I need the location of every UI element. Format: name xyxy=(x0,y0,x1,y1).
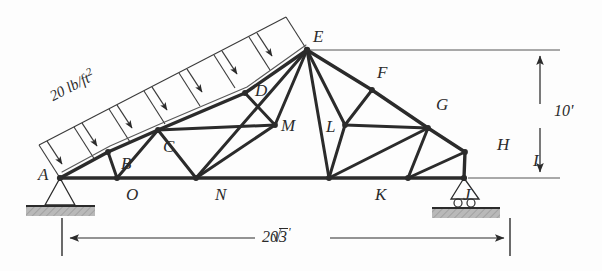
joint-M xyxy=(272,122,278,128)
member-C-M xyxy=(158,125,275,130)
joint-E xyxy=(304,47,310,53)
pin-triangle xyxy=(45,178,75,205)
roller-ground-hatch xyxy=(432,209,500,218)
node-label-K: K xyxy=(375,186,386,203)
member-A-E-top-inner xyxy=(62,45,306,172)
joint-G xyxy=(425,125,431,131)
span-dimension-label: 20√3' xyxy=(262,226,291,245)
node-label-D: D xyxy=(255,82,267,99)
support-pin-A xyxy=(26,178,95,216)
load-divider xyxy=(144,91,165,124)
node-label-O: O xyxy=(126,186,138,203)
node-label-C: C xyxy=(163,138,174,155)
node-label-A: A xyxy=(38,166,48,183)
load-divider xyxy=(214,55,235,88)
node-label-B: B xyxy=(121,155,131,172)
member-L-F xyxy=(345,90,372,125)
node-label-N: N xyxy=(215,186,226,203)
member-B-O xyxy=(108,152,117,178)
load-rail-end-right xyxy=(286,17,307,50)
joint-O xyxy=(114,175,120,181)
joint-C xyxy=(155,127,161,133)
node-label-I: I xyxy=(533,152,539,169)
load-divider xyxy=(179,73,200,106)
joint-N xyxy=(193,175,199,181)
truss-diagram-figure: A O N K J I B C D E F G H M L 20 lb/ft2 … xyxy=(0,0,602,271)
roller-wheel xyxy=(454,199,462,207)
joint-L xyxy=(342,122,348,128)
height-dimension-label: 10' xyxy=(554,103,573,119)
span-radical-sign: √ xyxy=(272,228,281,245)
node-label-F: F xyxy=(377,64,387,81)
member-E-N xyxy=(196,50,307,178)
node-label-G: G xyxy=(436,96,448,113)
pin-ground-hatch xyxy=(26,207,95,216)
load-divider xyxy=(74,127,95,160)
span-prime: ' xyxy=(288,225,291,239)
node-label-E: E xyxy=(313,28,323,45)
member-G-K xyxy=(329,128,428,178)
joint-J xyxy=(405,175,411,181)
node-label-M: M xyxy=(281,117,295,134)
load-divider xyxy=(249,37,270,70)
web-members xyxy=(108,50,465,178)
joint-H xyxy=(462,149,468,155)
joint-A xyxy=(57,175,63,181)
joint-K xyxy=(326,175,332,181)
node-label-H: H xyxy=(497,136,509,153)
node-label-J: J xyxy=(463,186,471,203)
member-L-G xyxy=(345,125,428,128)
extension-lines xyxy=(307,50,560,178)
left-top-chord-inner xyxy=(62,45,306,172)
joint-F xyxy=(369,87,375,93)
joint-D xyxy=(242,90,248,96)
load-divider xyxy=(109,109,130,142)
truss-members xyxy=(57,45,468,181)
node-label-L: L xyxy=(326,118,335,135)
truss-drawing-canvas xyxy=(0,0,602,271)
joint-I xyxy=(461,175,467,181)
joint-B xyxy=(105,149,111,155)
load-arrows xyxy=(47,33,272,164)
